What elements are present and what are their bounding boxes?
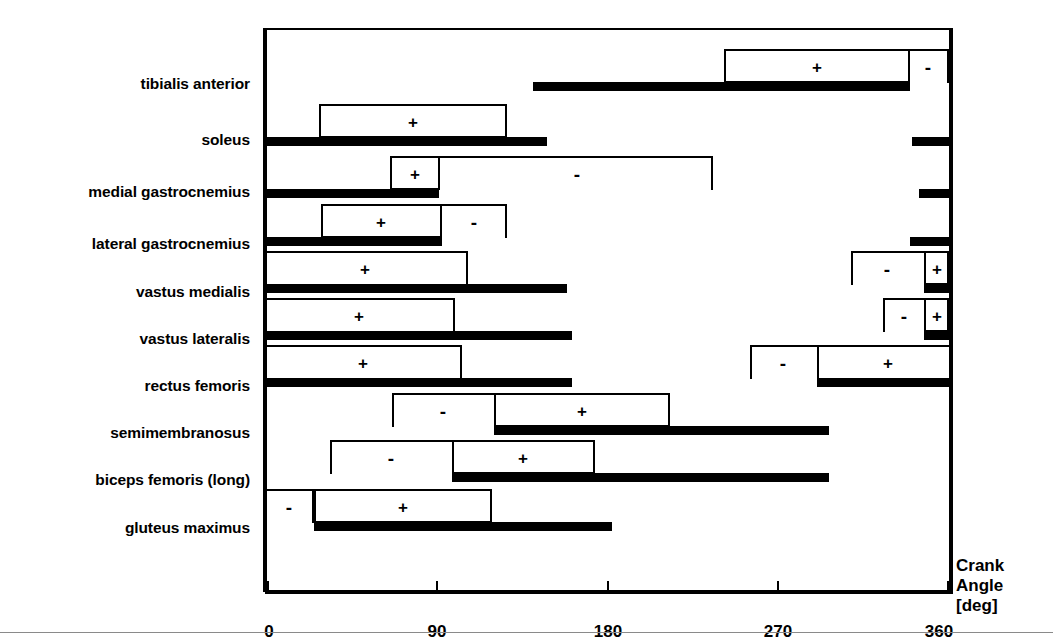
- sign-semimembranosus-negative: -: [440, 402, 446, 421]
- bar-vastus-lateralis-activation-wrap: [924, 331, 949, 340]
- emg-crank-angle-figure: tibialis anterior soleus medial gastrocn…: [0, 0, 1053, 644]
- row-label-biceps-femoris-long: biceps femoris (long): [0, 471, 258, 489]
- sign-tibialis-anterior-negative: -: [925, 58, 931, 77]
- sign-rectus-femoris-negative: -: [780, 354, 786, 373]
- sign-vastus-lateralis-positive-wrap: +: [932, 308, 942, 325]
- sign-soleus-positive: +: [408, 114, 418, 131]
- plot-right-border: [949, 28, 953, 594]
- bar-rectus-femoris-activation-wrap: [817, 378, 949, 387]
- bar-medial-gastrocnemius-activation: [267, 189, 439, 198]
- sign-lateral-gastrocnemius-positive: +: [376, 214, 386, 231]
- sign-lateral-gastrocnemius-negative: -: [471, 213, 477, 232]
- row-label-soleus: soleus: [0, 131, 258, 149]
- sign-medial-gastrocnemius-positive: +: [410, 166, 420, 183]
- sign-gluteus-maximus-negative: -: [286, 498, 292, 517]
- x-axis-caption-line-3: [deg]: [956, 596, 1004, 616]
- sign-semimembranosus-positive: +: [577, 403, 587, 420]
- x-axis-caption-line-2: Angle: [956, 576, 1004, 596]
- sign-vastus-lateralis-positive: +: [354, 308, 364, 325]
- x-axis-caption-line-1: Crank: [956, 556, 1004, 576]
- sign-rectus-femoris-positive: +: [358, 355, 368, 372]
- x-tick-90: [436, 581, 438, 592]
- bar-lateral-gastrocnemius-activation: [267, 237, 442, 246]
- bar-lateral-gastrocnemius-activation-wrap: [910, 237, 949, 246]
- footer-divider: [0, 632, 1053, 633]
- sign-vastus-medialis-positive: +: [360, 261, 370, 278]
- row-label-tibialis-anterior: tibialis anterior: [0, 75, 258, 93]
- sign-vastus-medialis-positive-wrap: +: [932, 261, 942, 278]
- bar-semimembranosus-activation: [494, 426, 829, 435]
- bar-soleus-activation-wrap: [912, 137, 949, 146]
- sign-tibialis-anterior-positive: +: [812, 59, 822, 76]
- bar-medial-gastrocnemius-activation-wrap: [919, 189, 949, 198]
- sign-vastus-medialis-negative: -: [884, 260, 890, 279]
- plot-area: + - + + - + - + - + +: [265, 28, 952, 592]
- row-label-semimembranosus: semimembranosus: [0, 424, 258, 442]
- bar-gluteus-maximus-activation: [314, 522, 612, 531]
- category-axis-labels: tibialis anterior soleus medial gastrocn…: [0, 28, 258, 588]
- sign-rectus-femoris-positive-wrap: +: [883, 355, 893, 372]
- sign-gluteus-maximus-positive: +: [398, 499, 408, 516]
- bar-biceps-femoris-long-activation: [452, 473, 829, 482]
- row-label-vastus-medialis: vastus medialis: [0, 283, 258, 301]
- x-tick-0: [267, 581, 269, 592]
- row-label-medial-gastrocnemius: medial gastrocnemius: [0, 183, 258, 201]
- bar-soleus-activation: [267, 137, 547, 146]
- row-label-gluteus-maximus: gluteus maximus: [0, 519, 258, 537]
- bar-tibialis-anterior-activation: [533, 82, 910, 91]
- x-tick-180: [607, 581, 609, 592]
- row-label-lateral-gastrocnemius: lateral gastrocnemius: [0, 235, 258, 253]
- bar-vastus-medialis-activation: [267, 284, 567, 293]
- sign-biceps-femoris-long-negative: -: [388, 449, 394, 468]
- row-label-vastus-lateralis: vastus lateralis: [0, 330, 258, 348]
- x-tick-360: [947, 581, 949, 592]
- row-label-rectus-femoris: rectus femoris: [0, 377, 258, 395]
- sign-biceps-femoris-long-positive: +: [518, 450, 528, 467]
- sign-vastus-lateralis-negative: -: [901, 307, 907, 326]
- sign-medial-gastrocnemius-negative: -: [574, 165, 580, 184]
- x-axis-caption: Crank Angle [deg]: [956, 556, 1004, 616]
- bar-vastus-medialis-activation-wrap: [924, 284, 949, 293]
- x-tick-270: [777, 581, 779, 592]
- bar-vastus-lateralis-activation: [267, 331, 572, 340]
- bar-rectus-femoris-activation: [267, 378, 572, 387]
